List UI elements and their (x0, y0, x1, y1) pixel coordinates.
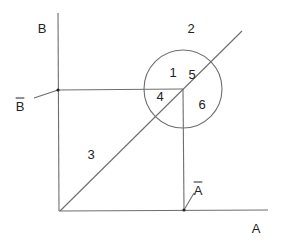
region-4-label: 4 (156, 90, 163, 103)
a-bar-point (182, 208, 185, 211)
a-bar-pointer (184, 193, 194, 210)
region-1-label: 1 (169, 66, 176, 79)
x-axis-label: A (252, 222, 261, 235)
x-axis (59, 210, 268, 211)
b-bar-label: B (16, 100, 25, 113)
a-bar-label: A (194, 184, 203, 197)
y-axis-label: B (38, 22, 47, 35)
b-bar-pointer (34, 90, 58, 98)
y-axis (58, 13, 59, 211)
region-3-label: 3 (87, 148, 94, 161)
b-bar-point (56, 88, 59, 91)
b-bar-projection-line (58, 89, 183, 90)
region-2-label: 2 (187, 22, 194, 35)
region-5-label: 5 (188, 68, 195, 81)
region-6-label: 6 (198, 98, 205, 111)
diagram-canvas (0, 0, 284, 244)
a-bar-projection-line (183, 89, 184, 210)
diagonal-line (60, 31, 242, 211)
